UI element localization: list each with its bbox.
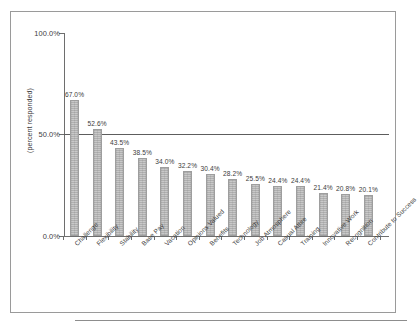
bar-value-label: 21.4% [313,184,332,191]
y-axis-label-100: 100.0% [16,29,60,38]
bar-value-label: 24.4% [291,177,310,184]
y-axis-tick-labels: 100.0% 50.0% 0.0% (percent responded) [10,0,60,325]
reference-line-50 [64,134,389,135]
bar [138,158,147,236]
bar-value-label: 30.4% [200,165,219,172]
footer-rule [75,320,407,321]
y-axis-label-50: 50.0% [16,130,60,139]
bar-value-label: 20.8% [336,185,355,192]
bar-value-label: 43.5% [110,139,129,146]
y-axis-label-0: 0.0% [16,232,60,241]
x-axis-tick [63,236,64,240]
bar-value-label: 67.0% [65,91,84,98]
bar-value-label: 52.6% [87,120,106,127]
bar [115,148,124,236]
bar-value-label: 25.5% [246,175,265,182]
x-axis-line [64,236,389,237]
bar-value-label: 34.0% [155,158,174,165]
y-axis-title: (percent responded) [25,66,34,176]
bar-value-label: 20.1% [359,186,378,193]
bar-value-label: 24.4% [268,177,287,184]
bar-value-label: 28.2% [223,170,242,177]
bar [70,100,79,236]
bar-value-label: 32.2% [178,162,197,169]
bar-value-label: 38.5% [133,149,152,156]
bar [228,179,237,236]
